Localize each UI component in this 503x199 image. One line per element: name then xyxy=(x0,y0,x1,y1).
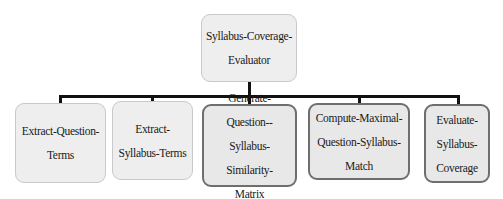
node-1-line-1: Extract-Question- xyxy=(22,119,99,143)
node-2-line-1: Extract- xyxy=(119,117,187,141)
node-evaluate-syllabus-coverage: Evaluate- Syllabus- Coverage xyxy=(424,104,490,183)
node-3-line-1: Generate-Question-- xyxy=(207,86,292,134)
node-5-line-1: Evaluate- xyxy=(436,108,478,132)
node-extract-syllabus-terms: Extract- Syllabus-Terms xyxy=(112,101,193,180)
node-3-line-2: Syllabus-Similarity- xyxy=(207,134,292,182)
root-node-line-2: Evaluator xyxy=(206,48,292,72)
node-4-line-1: Compute-Maximal- xyxy=(316,106,403,130)
root-node-syllabus-coverage-evaluator: Syllabus-Coverage- Evaluator xyxy=(201,14,297,82)
node-3-line-3: Matrix xyxy=(207,182,292,199)
node-5-line-3: Coverage xyxy=(436,156,478,180)
node-2-line-2: Syllabus-Terms xyxy=(119,141,187,165)
root-node-line-1: Syllabus-Coverage- xyxy=(206,24,292,48)
node-compute-maximal-question-syllabus-match: Compute-Maximal- Question-Syllabus- Matc… xyxy=(308,103,410,180)
node-extract-question-terms: Extract-Question- Terms xyxy=(15,103,106,183)
node-4-line-3: Match xyxy=(316,154,403,178)
node-1-line-2: Terms xyxy=(22,143,99,167)
node-generate-question-syllabus-similarity-matrix: Generate-Question-- Syllabus-Similarity-… xyxy=(202,104,297,187)
node-4-line-2: Question-Syllabus- xyxy=(316,130,403,154)
node-5-line-2: Syllabus- xyxy=(436,132,478,156)
